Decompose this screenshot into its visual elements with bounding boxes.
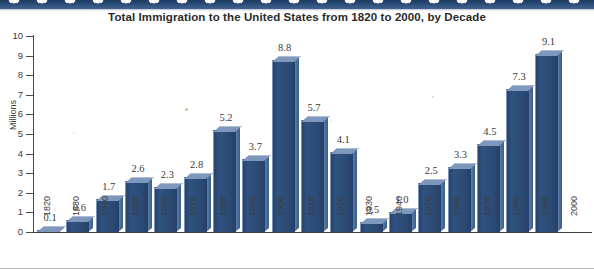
bar-value-label: 3.3 [444,149,478,160]
scan-artifact [432,96,434,98]
y-axis-title: Millions [8,80,18,150]
bar-value-label: 5.2 [209,112,243,123]
x-axis-tick-label: 1990 [540,196,550,236]
x-axis-tick-label: 1960 [452,196,462,236]
bar-value-label: 5.7 [297,102,331,113]
x-axis-tick-label: 1980 [511,196,521,236]
x-axis-tick-label: 1900 [276,196,286,236]
bar-value-label: 2.5 [414,165,448,176]
chart-page: Total Immigration to the United States f… [0,0,594,269]
y-axis-tick-label: 8 [18,69,23,80]
y-axis-tick-label: 2 [18,187,23,198]
x-axis-tick-label: 1870 [188,196,198,236]
scan-artifact [185,108,188,111]
bar-value-label: 4.5 [473,126,507,137]
x-axis-tick-label: 1830 [71,196,81,236]
y-axis-tick-label: 0 [18,226,23,237]
y-axis-tick-label: 10 [12,30,23,41]
x-axis-tick-label: 1940 [394,196,404,236]
y-axis-tick-label: 4 [18,148,23,159]
y-axis-tick-label: 3 [18,167,23,178]
x-axis-tick-label: 1910 [306,196,316,236]
y-axis-tick-label: 6 [18,108,23,119]
y-axis-tick-label: 7 [18,89,23,100]
y-axis-tick-label: 5 [18,128,23,139]
x-axis-tick-label: 1850 [130,196,140,236]
x-axis-tick-label: 2000 [569,196,579,236]
bar-value-label: 7.3 [502,71,536,82]
y-axis-tick-label: 1 [18,206,23,217]
scan-artifact [330,120,332,122]
page-title: Total Immigration to the United States f… [0,11,594,23]
x-axis-tick-label: 1970 [482,196,492,236]
y-axis-tick-label: 9 [18,50,23,61]
x-axis-tick-label: 1880 [218,196,228,236]
bar-value-label: 2.8 [180,159,214,170]
x-axis-tick-label: 1890 [247,196,257,236]
bar-value-label: 9.1 [531,36,565,47]
x-axis-tick-label: 1930 [364,196,374,236]
bar-value-label: 4.1 [326,134,360,145]
x-axis-tick-label: 1840 [100,196,110,236]
decorative-top-band [0,0,594,9]
x-axis-tick-label: 1950 [423,196,433,236]
x-axis-tick-label: 1860 [159,196,169,236]
bar-value-label: 3.7 [238,141,272,152]
y-axis-tick: 0 [26,232,34,233]
bar-value-label: 8.8 [268,42,302,53]
bar-value-label: 2.3 [150,169,184,180]
x-axis-tick-label: 1820 [42,196,52,236]
x-axis-tick-label: 1920 [335,196,345,236]
bar-value-label: 1.7 [92,181,126,192]
scan-artifact [73,132,75,134]
